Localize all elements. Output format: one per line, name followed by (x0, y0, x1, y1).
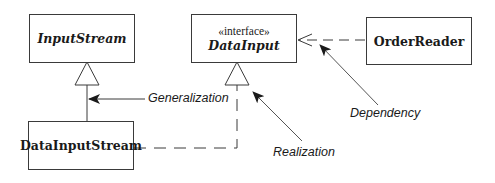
stereotype-label: «interface» (218, 24, 270, 38)
class-box-data-input: «interface» DataInput (191, 14, 297, 63)
realization-connector (134, 62, 249, 148)
uml-class-diagram: InputStream «interface» DataInput OrderR… (0, 0, 495, 183)
hollow-triangle-icon (225, 62, 249, 85)
class-name: InputStream (37, 31, 126, 46)
generalization-connector (75, 62, 99, 121)
class-box-order-reader: OrderReader (366, 17, 472, 65)
class-box-input-stream: InputStream (29, 14, 135, 63)
class-name: DataInputStream (20, 138, 142, 153)
realization-label: Realization (273, 145, 335, 159)
hollow-triangle-icon (75, 62, 99, 85)
generalization-label: Generalization (148, 91, 229, 105)
dependency-connector (298, 34, 365, 46)
realization-pointer (253, 92, 302, 141)
class-box-data-input-stream: DataInputStream (28, 121, 134, 170)
class-name: OrderReader (374, 34, 464, 49)
class-name: DataInput (208, 38, 279, 53)
dependency-label: Dependency (350, 106, 420, 120)
